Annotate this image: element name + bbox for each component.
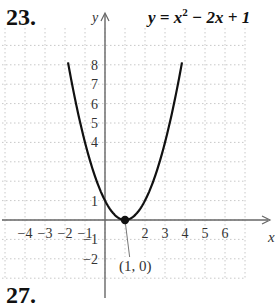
y-tick-label: 8 — [91, 58, 98, 73]
x-tick-label: 4 — [182, 226, 189, 241]
y-tick-label: 4 — [91, 135, 98, 150]
vertex-point — [121, 216, 129, 224]
x-tick-label: −3 — [38, 226, 53, 241]
y-tick-label: 5 — [91, 116, 98, 131]
vertex-leader-line — [125, 220, 130, 260]
y-axis-label: y — [90, 10, 99, 25]
y-tick-label: −2 — [83, 252, 98, 267]
vertex-label: (1, 0) — [119, 258, 152, 275]
y-tick-label: 6 — [91, 97, 98, 112]
x-tick-label: 2 — [142, 226, 149, 241]
next-problem-number: 27. — [6, 282, 36, 307]
y-tick-label: −1 — [83, 232, 98, 247]
x-axis-label: x — [267, 229, 275, 245]
x-tick-label: 3 — [162, 226, 169, 241]
x-tick-label: −4 — [18, 226, 33, 241]
y-tick-label: 7 — [91, 77, 98, 92]
x-tick-label: 6 — [222, 226, 229, 241]
y-tick-label: 1 — [91, 194, 98, 209]
x-tick-label: 5 — [202, 226, 209, 241]
x-tick-label: −2 — [58, 226, 73, 241]
